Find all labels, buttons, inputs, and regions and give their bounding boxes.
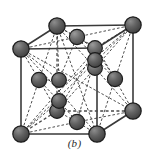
edge-back-top [57,25,133,26]
figure-caption: (b) [0,136,149,150]
crystal-structure-figure: (b) [0,0,149,161]
face-center-left [31,72,46,87]
corner-front-top-left [13,41,29,57]
interior-atom-4 [52,94,67,109]
face-center-right [107,71,122,86]
face-center-bottom [69,114,84,129]
interior-atom-3 [52,73,67,88]
corner-back-bottom-right [125,103,141,119]
corner-back-top-left [49,18,65,34]
edge-front-top [21,48,97,49]
interior-atom-2 [88,53,103,68]
face-center-top [69,29,84,44]
corner-back-top-right [125,17,141,33]
